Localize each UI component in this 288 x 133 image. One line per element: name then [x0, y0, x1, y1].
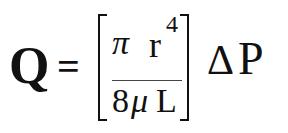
delta-symbol: Δ — [207, 39, 234, 81]
viscosity-symbol: μ — [131, 84, 148, 118]
length-symbol: L — [156, 84, 177, 118]
fraction-bar — [112, 80, 182, 81]
denominator-constant: 8 — [112, 84, 129, 118]
right-bracket — [180, 14, 189, 121]
pressure-symbol: P — [238, 36, 264, 82]
pi-symbol: π — [112, 26, 129, 60]
left-bracket — [98, 14, 107, 121]
radius-exponent: 4 — [166, 12, 178, 36]
flow-rate-symbol: Q — [9, 40, 49, 92]
equals-sign: = — [57, 47, 80, 87]
radius-symbol: r — [149, 27, 161, 63]
